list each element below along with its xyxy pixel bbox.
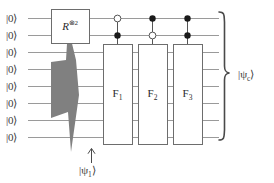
psi-1-close: ⟩ — [92, 164, 96, 176]
f3-gate-label: F3 — [173, 87, 202, 102]
circuit-canvas — [0, 0, 274, 183]
r-gate-label: R⊗2 — [51, 19, 89, 32]
f1-gate-label: F1 — [103, 87, 132, 102]
control-open-circle-2 — [149, 32, 156, 39]
f2-gate-label: F2 — [138, 87, 167, 102]
psi-c-close: ⟩ — [250, 68, 254, 80]
psi1-arrow — [88, 148, 95, 163]
control-filled-dot-2 — [149, 15, 155, 21]
f2-subscript: 2 — [154, 93, 158, 102]
quantum-circuit-figure: |0⟩ |0⟩ |0⟩ |0⟩ |0⟩ |0⟩ |0⟩ |0⟩ — [0, 0, 274, 183]
control-filled-dot-3a — [184, 15, 190, 21]
f3-subscript: 3 — [189, 93, 193, 102]
gray-wedge — [51, 27, 79, 152]
control-filled-dot-1 — [114, 32, 120, 38]
intermediate-state-label: |ψ1⟩ — [79, 164, 96, 179]
output-state-label: |ψc⟩ — [238, 68, 254, 83]
psi-c-base: |ψ — [238, 68, 247, 80]
psi-1-base: |ψ — [79, 164, 88, 176]
control-filled-dot-3b — [184, 32, 190, 38]
control-open-circle-1 — [114, 15, 121, 22]
f1-subscript: 1 — [119, 93, 123, 102]
r-gate-base: R — [62, 20, 69, 32]
r-gate-superscript: ⊗2 — [69, 19, 78, 27]
output-brace — [219, 12, 230, 140]
